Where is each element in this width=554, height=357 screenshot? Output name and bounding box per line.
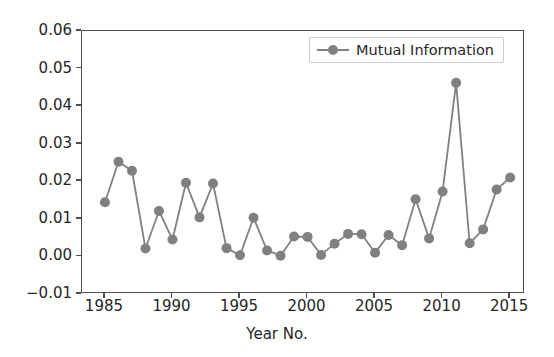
data-point-marker [303,232,313,242]
x-tick-label: 2015 [490,299,528,314]
data-point-marker [370,248,380,258]
data-point-marker [478,224,488,234]
data-point-marker [330,239,340,249]
data-point-marker [397,240,407,250]
data-point-marker [492,185,502,195]
x-tick-label: 2010 [423,299,461,314]
data-point-marker [505,173,515,183]
y-tick-label: 0.00 [39,248,72,263]
data-point-marker [127,166,137,176]
data-point-marker [262,245,272,255]
data-point-marker [195,212,205,222]
legend-circle-marker-icon [328,45,338,55]
data-point-marker [154,206,164,216]
y-tick-label: 0.03 [39,135,72,150]
data-point-marker [181,178,191,188]
data-point-marker [140,244,150,254]
data-point-marker [289,232,299,242]
x-tick-mark [306,293,308,298]
data-point-marker [451,78,461,88]
y-tick-label: 0.05 [39,60,72,75]
y-tick-mark [76,255,81,257]
data-point-marker [167,235,177,245]
data-point-marker [357,229,367,239]
x-tick-mark [238,293,240,298]
mutual-information-line [105,83,510,256]
y-tick-label: −0.01 [26,286,72,301]
x-tick-mark [171,293,173,298]
data-point-marker [222,243,232,253]
data-point-marker [276,251,286,261]
x-tick-label: 2005 [355,299,393,314]
legend-line-marker-swatch [317,43,349,57]
y-tick-label: 0.06 [39,23,72,38]
y-tick-label: 0.01 [39,210,72,225]
data-point-marker [424,233,434,243]
chart-legend: Mutual Information [309,37,504,63]
x-tick-mark [103,293,105,298]
y-tick-mark [76,142,81,144]
data-point-marker [100,197,110,207]
data-point-marker [113,157,123,167]
y-tick-mark [76,104,81,106]
y-axis-tick-labels: −0.010.000.010.020.030.040.050.06 [0,0,72,357]
data-point-marker [316,250,326,260]
x-tick-mark [373,293,375,298]
x-axis-label: Year No. [0,325,554,343]
x-tick-label: 1995 [220,299,258,314]
x-tick-mark [441,293,443,298]
data-point-marker [249,213,259,223]
y-tick-mark [76,29,81,31]
y-tick-label: 0.04 [39,98,72,113]
data-point-marker [465,238,475,248]
x-tick-label: 1990 [152,299,190,314]
plot-area [81,30,524,293]
y-tick-mark [76,292,81,294]
x-tick-label: 1985 [85,299,123,314]
chart-figure: −0.010.000.010.020.030.040.050.06 Mutual… [0,0,554,357]
y-tick-mark [76,217,81,219]
data-point-marker [384,230,394,240]
line-series-svg [82,31,525,294]
x-tick-mark [508,293,510,298]
y-tick-mark [76,179,81,181]
data-point-marker [343,229,353,239]
y-tick-mark [76,67,81,69]
legend-label: Mutual Information [356,42,494,58]
data-point-marker [411,194,421,204]
data-point-marker [208,179,218,189]
data-point-marker [235,250,245,260]
x-tick-label: 2000 [287,299,325,314]
y-tick-label: 0.02 [39,173,72,188]
data-point-marker [438,186,448,196]
